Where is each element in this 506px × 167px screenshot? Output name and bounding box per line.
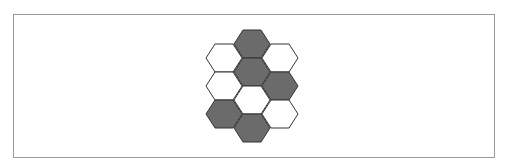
hexagon-grid [0,0,506,167]
